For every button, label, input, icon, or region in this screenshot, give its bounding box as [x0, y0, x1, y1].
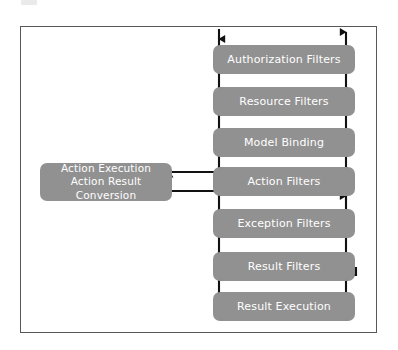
stage-resource-filters[interactable]: Resource Filters: [213, 87, 355, 116]
stage-action-execution[interactable]: Action Execution Action Result Conversio…: [40, 163, 172, 201]
stage-exception-filters[interactable]: Exception Filters: [213, 209, 355, 238]
stage-result-execution[interactable]: Result Execution: [213, 292, 355, 321]
stage-label: Result Filters: [248, 260, 321, 274]
stage-label: Authorization Filters: [227, 53, 340, 67]
stage-authorization-filters[interactable]: Authorization Filters: [213, 45, 355, 74]
stage-model-binding[interactable]: Model Binding: [213, 128, 355, 157]
stage-label: Action Filters: [247, 175, 320, 189]
stage-label: Model Binding: [244, 136, 324, 150]
stage-action-filters[interactable]: Action Filters: [213, 167, 355, 196]
action-execution-line1: Action Execution: [61, 162, 151, 175]
action-execution-line2: Action Result Conversion: [40, 175, 172, 201]
stage-result-filters[interactable]: Result Filters: [213, 252, 355, 281]
stage-label: Exception Filters: [237, 217, 330, 231]
stage-label: Result Execution: [237, 300, 331, 314]
stage-label: Resource Filters: [239, 95, 328, 109]
diagram-canvas: Authorization Filters Resource Filters M…: [0, 0, 398, 350]
